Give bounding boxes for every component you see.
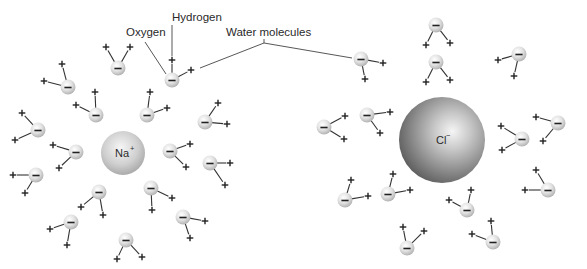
water-molecule — [198, 100, 231, 130]
plus-icon — [127, 44, 134, 51]
water-molecule — [423, 55, 454, 86]
plus-icon — [365, 193, 372, 200]
plus-icon — [149, 207, 156, 214]
o-h-bond — [62, 156, 71, 165]
water-molecule — [50, 142, 84, 172]
o-h-bond — [347, 184, 350, 194]
plus-icon — [100, 212, 107, 219]
o-h-bond — [214, 168, 223, 181]
o-h-bond — [440, 67, 448, 77]
water-molecule — [533, 114, 566, 145]
o-h-bond — [95, 96, 96, 109]
o-h-bond — [394, 191, 406, 193]
water-molecule — [423, 18, 454, 49]
water-molecule — [338, 177, 372, 208]
o-h-bond — [412, 234, 422, 244]
plus-icon — [22, 190, 29, 197]
plus-icon — [400, 224, 407, 231]
plus-icon — [362, 76, 369, 83]
o-h-bond — [504, 128, 516, 135]
chloride-symbol: Cl — [436, 134, 446, 146]
plus-icon — [390, 171, 397, 178]
o-h-bond — [57, 146, 70, 150]
o-h-bond — [178, 72, 188, 77]
o-h-bond — [506, 142, 517, 148]
plus-icon — [227, 160, 234, 167]
o-h-bond — [515, 60, 518, 72]
water-molecule — [354, 52, 387, 83]
water-leader-line-2 — [264, 43, 352, 58]
chloride-charge: − — [446, 131, 451, 140]
water-molecule — [360, 108, 394, 137]
labels: Hydrogen Oxygen Water molecules — [126, 11, 311, 38]
plus-icon — [41, 78, 48, 85]
o-h-bond — [330, 130, 341, 137]
o-h-bond — [185, 223, 189, 234]
o-h-bond — [68, 228, 70, 241]
water-molecule — [114, 233, 146, 263]
plus-icon — [103, 44, 110, 51]
plus-icon — [78, 204, 85, 211]
o-h-bond — [148, 96, 150, 109]
oxygen-leader-line — [145, 42, 166, 74]
o-h-bond — [538, 173, 545, 184]
water-molecule — [400, 224, 428, 256]
o-h-bond — [121, 50, 128, 62]
plus-icon — [380, 60, 387, 67]
plus-icon — [92, 89, 99, 96]
plus-icon — [187, 235, 194, 242]
plus-icon — [202, 218, 209, 225]
o-h-bond — [367, 60, 379, 62]
water-molecule — [47, 215, 79, 249]
plus-icon — [19, 110, 26, 117]
o-h-bond — [546, 128, 554, 138]
water-molecule — [165, 57, 195, 88]
o-h-bond — [404, 231, 406, 242]
o-h-bond — [362, 65, 364, 75]
o-h-bond — [373, 113, 386, 115]
water-molecule — [381, 171, 414, 202]
plus-icon — [423, 42, 430, 49]
water-molecule — [10, 168, 44, 197]
plus-icon — [169, 57, 176, 64]
plus-icon — [188, 67, 195, 74]
plus-icon — [73, 102, 80, 109]
plus-icon — [533, 167, 540, 174]
water-molecule — [78, 185, 107, 219]
plus-icon — [533, 114, 540, 121]
o-h-bond — [157, 191, 169, 196]
o-h-bond — [209, 106, 216, 116]
o-h-bond — [491, 225, 492, 236]
o-h-bond — [108, 50, 115, 62]
water-molecule — [446, 187, 475, 218]
o-h-bond — [468, 194, 470, 204]
o-h-bond — [63, 68, 66, 81]
water-molecule — [203, 156, 234, 189]
plus-icon — [222, 182, 229, 189]
o-h-bond — [371, 120, 378, 129]
plus-icon — [469, 231, 476, 238]
o-h-bond — [476, 235, 487, 239]
diagram-canvas: Hydrogen Oxygen Water molecules Na+Cl− — [0, 0, 587, 269]
o-h-bond — [176, 145, 186, 149]
plus-icon — [499, 147, 506, 154]
hydrogen-label: Hydrogen — [172, 11, 222, 23]
o-h-bond — [452, 202, 461, 207]
o-h-bond — [189, 218, 201, 220]
water-molecule — [73, 89, 104, 123]
plus-icon — [114, 256, 121, 263]
o-h-bond — [428, 31, 433, 42]
plus-icon — [407, 187, 414, 194]
plus-icon — [387, 109, 394, 116]
water-molecule — [495, 47, 527, 80]
water-molecule — [522, 167, 556, 198]
plus-icon — [495, 57, 502, 64]
water-molecule — [12, 110, 46, 144]
o-h-bond — [502, 56, 513, 59]
plus-icon — [139, 254, 146, 261]
plus-icon — [341, 136, 348, 143]
water-molecule — [163, 141, 194, 171]
o-h-bond — [119, 246, 124, 256]
o-h-bond — [330, 118, 342, 124]
plus-icon — [447, 77, 454, 84]
